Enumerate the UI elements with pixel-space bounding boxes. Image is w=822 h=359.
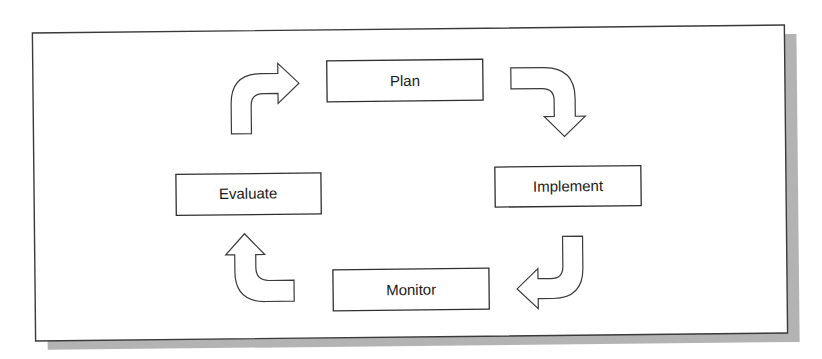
step-label-implement: Implement bbox=[533, 177, 604, 195]
cycle-diagram: Plan Implement Monitor Evaluate bbox=[0, 0, 822, 359]
step-box-evaluate: Evaluate bbox=[176, 173, 321, 216]
step-label-plan: Plan bbox=[390, 72, 420, 89]
diagram-canvas: Plan Implement Monitor Evaluate bbox=[0, 0, 822, 359]
step-label-evaluate: Evaluate bbox=[219, 184, 278, 202]
step-label-monitor: Monitor bbox=[386, 281, 436, 299]
step-box-monitor: Monitor bbox=[333, 268, 489, 311]
step-box-plan: Plan bbox=[327, 59, 483, 102]
step-box-implement: Implement bbox=[495, 166, 641, 208]
